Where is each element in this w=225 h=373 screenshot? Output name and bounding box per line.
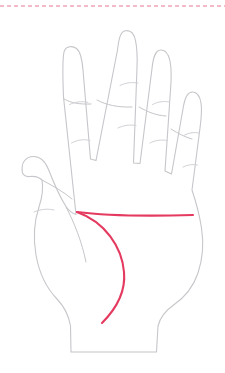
middle-lower-crease-icon [118,125,136,128]
palm-diagram-figure [0,0,225,373]
life-line [77,212,124,323]
pinky-upper-crease-icon [185,133,200,135]
heart-line [77,212,193,216]
middle-upper-crease-icon [120,83,138,86]
ring-upper-crease-icon [153,102,170,105]
ring-finger-base-line [139,107,166,116]
ring-lower-crease-icon [150,140,167,143]
palm-diagram-canvas [0,0,225,373]
pinky-finger-base-line [171,129,192,139]
index-lower-crease-icon [72,140,91,143]
middle-finger-base-line [97,100,132,107]
hand-outline [22,31,203,352]
thumb-crease-icon [34,209,54,212]
